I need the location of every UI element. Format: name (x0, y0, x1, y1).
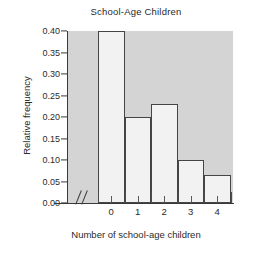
x-tick-label: 2 (154, 206, 174, 217)
y-tick-mark (61, 202, 67, 203)
x-tick-label: 0 (101, 206, 121, 217)
x-axis-title: Number of school-age children (0, 229, 272, 240)
y-tick-label: 0.25 (28, 91, 60, 101)
y-tick-label: 0.35 (28, 48, 60, 58)
y-tick-label: 0.15 (28, 134, 60, 144)
x-tick-boundary (151, 192, 152, 203)
histogram-figure: School-Age Children 0.000.050.100.150.20… (0, 0, 272, 254)
y-tick-label: 0.00 (28, 198, 60, 208)
y-tick-mark (61, 95, 67, 96)
x-tick-boundary (98, 192, 99, 203)
y-tick-label: 0.10 (28, 155, 60, 165)
y-tick-label: 0.20 (28, 112, 60, 122)
axis-break-icon (75, 190, 95, 206)
x-tick-center (164, 196, 165, 203)
x-tick-label: 3 (181, 206, 201, 217)
y-tick-mark (61, 52, 67, 53)
x-tick-center (191, 196, 192, 203)
y-axis-title: Relative frequency (21, 30, 32, 202)
bar (125, 117, 152, 203)
y-tick-label: 0.30 (28, 69, 60, 79)
y-tick-mark (61, 73, 67, 74)
x-tick-center (111, 196, 112, 203)
x-tick-label: 1 (128, 206, 148, 217)
x-tick-boundary (125, 192, 126, 203)
y-tick-mark (61, 159, 67, 160)
x-tick-center (138, 196, 139, 203)
y-tick-label: 0.05 (28, 177, 60, 187)
x-tick-label: 4 (207, 206, 227, 217)
x-tick-boundary (231, 192, 232, 203)
y-tick-mark (61, 181, 67, 182)
y-tick-mark (61, 116, 67, 117)
y-tick-label: 0.40 (28, 26, 60, 36)
bar (98, 31, 125, 203)
bar (151, 104, 178, 203)
y-tick-mark (61, 30, 67, 31)
y-axis-line (67, 31, 68, 204)
x-tick-center (217, 196, 218, 203)
x-tick-boundary (178, 192, 179, 203)
y-tick-mark (61, 138, 67, 139)
x-tick-boundary (204, 192, 205, 203)
